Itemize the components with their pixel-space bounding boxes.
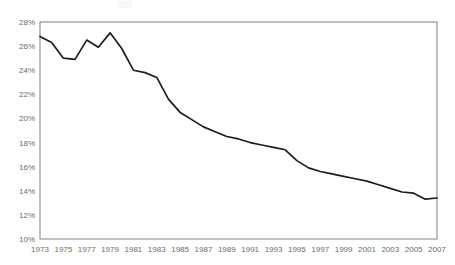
x-tick-label: 1991 (241, 245, 259, 254)
x-tick-label: 1975 (54, 245, 72, 254)
y-tick-label: 22% (19, 90, 35, 99)
y-tick-label: 12% (19, 211, 35, 220)
y-tick-label: 16% (19, 163, 35, 172)
y-tick-label: 26% (19, 42, 35, 51)
x-tick-label: 1995 (288, 245, 306, 254)
x-tick-label: 1989 (218, 245, 236, 254)
x-tick-label: 1999 (335, 245, 353, 254)
y-tick-label: 20% (19, 114, 35, 123)
y-tick-label: 14% (19, 187, 35, 196)
x-tick-label: 1987 (195, 245, 213, 254)
x-tick-label: 2001 (358, 245, 376, 254)
x-tick-label: 1981 (125, 245, 143, 254)
x-tick-label: 1985 (171, 245, 189, 254)
x-tick-label: 2005 (405, 245, 423, 254)
chart-canvas: 28%26%24%22%20%18%16%14%12%10% 197319751… (0, 0, 455, 265)
y-tick-label: 10% (19, 235, 35, 244)
x-tick-label: 2007 (428, 245, 446, 254)
x-tick-label: 1979 (101, 245, 119, 254)
plot-area-frame (40, 22, 437, 239)
line-chart: 28%26%24%22%20%18%16%14%12%10% 197319751… (0, 0, 455, 265)
x-tick-label: 1997 (311, 245, 329, 254)
x-tick-label: 1993 (265, 245, 283, 254)
x-tick-label: 2003 (381, 245, 399, 254)
y-tick-label: 24% (19, 66, 35, 75)
y-axis-tick-labels: 28%26%24%22%20%18%16%14%12%10% (19, 18, 35, 244)
scan-artifact (118, 1, 132, 8)
x-tick-label: 1983 (148, 245, 166, 254)
y-tick-label: 18% (19, 139, 35, 148)
x-tick-label: 1977 (78, 245, 96, 254)
x-axis-tick-labels: 1973197519771979198119831985198719891991… (31, 245, 446, 254)
x-tick-label: 1973 (31, 245, 49, 254)
y-tick-label: 28% (19, 18, 35, 27)
